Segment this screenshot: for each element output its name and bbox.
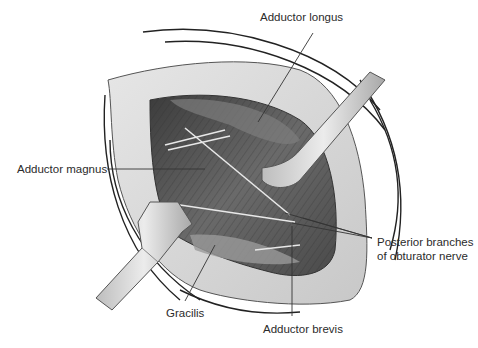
label-adductor-brevis: Adductor brevis [263, 322, 343, 336]
label-adductor-longus: Adductor longus [260, 10, 343, 24]
label-posterior-branches: Posterior branches of obturator nerve [377, 235, 474, 263]
label-gracilis: Gracilis [166, 306, 204, 320]
label-adductor-magnus: Adductor magnus [17, 162, 107, 176]
label-posterior-branches-line1: Posterior branches [377, 235, 474, 249]
label-posterior-branches-line2: of obturator nerve [377, 249, 474, 263]
